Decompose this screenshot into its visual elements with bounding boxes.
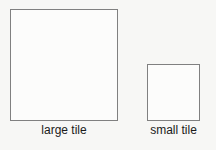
small-tile-label: small tile (147, 123, 200, 137)
large-tile-label: large tile (10, 123, 118, 137)
large-tile-square (10, 9, 118, 121)
tile-comparison-figure: large tile small tile (0, 0, 216, 150)
small-tile-square (147, 64, 200, 121)
